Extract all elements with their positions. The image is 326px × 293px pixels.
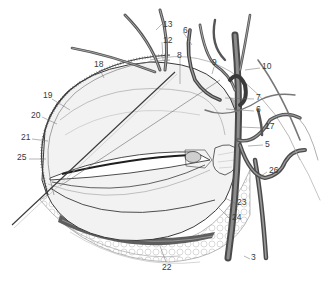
label-25: 25: [17, 153, 26, 162]
label-10: 10: [262, 62, 271, 71]
label-24: 24: [232, 213, 241, 222]
label-6-right: 6: [256, 105, 261, 114]
label-18: 18: [94, 60, 103, 69]
label-3: 3: [251, 253, 256, 262]
label-23: 23: [237, 198, 246, 207]
label-6-top: 6: [183, 26, 188, 35]
anatomical-figure: 13 12 6 8 9 10 18 7 6 17 5 19 20 21 25 2…: [0, 0, 326, 293]
label-21: 21: [21, 133, 30, 142]
label-13: 13: [163, 20, 172, 29]
label-22: 22: [162, 263, 171, 272]
label-5: 5: [265, 140, 270, 149]
label-8: 8: [177, 51, 182, 60]
label-7: 7: [256, 93, 261, 102]
label-19: 19: [43, 91, 52, 100]
label-20: 20: [31, 111, 40, 120]
label-17: 17: [265, 122, 274, 131]
label-12: 12: [163, 36, 172, 45]
label-26: 26: [269, 166, 278, 175]
label-9: 9: [212, 58, 217, 67]
